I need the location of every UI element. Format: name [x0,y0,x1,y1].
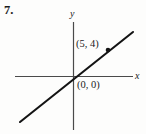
figure-container: 7. y x (5, 4) (0, 0) [0,0,146,134]
point-label-origin: (0, 0) [77,80,100,91]
coordinate-plane-graphic [0,0,146,134]
x-axis-label: x [135,71,139,81]
point-label-upper: (5, 4) [76,39,99,50]
y-axis-label: y [70,9,74,19]
data-point-marker [106,48,111,53]
